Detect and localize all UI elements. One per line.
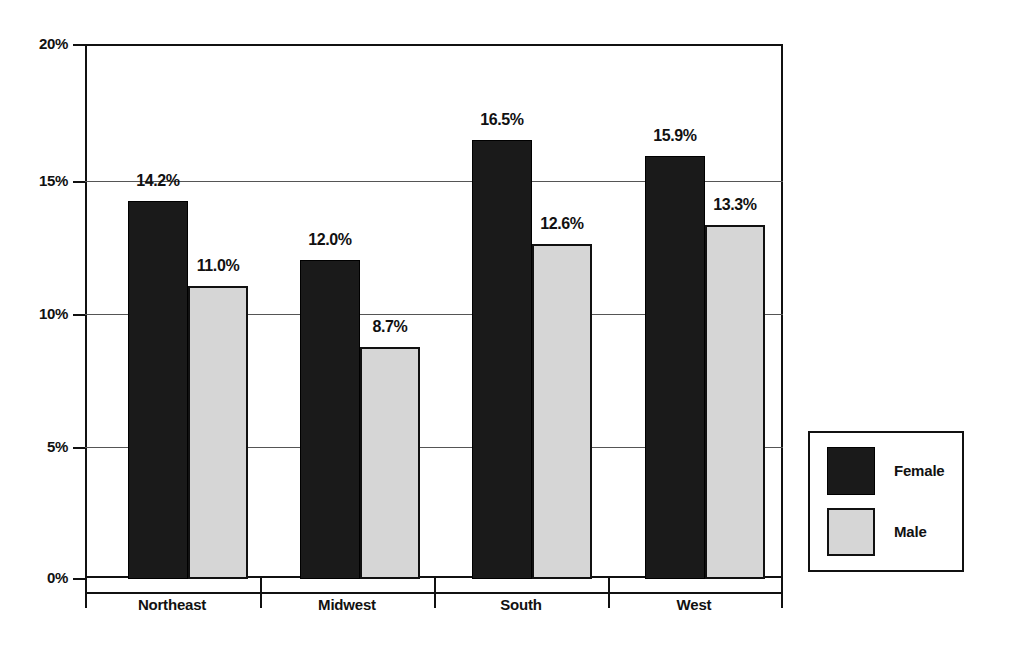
ytick-0: 0% — [0, 569, 68, 587]
bar-west-male[interactable] — [705, 225, 765, 579]
ytick-mark-15 — [73, 181, 85, 183]
legend-entry-male[interactable]: Male — [810, 508, 962, 564]
ytick-label-0: 0% — [0, 569, 68, 586]
bar-chart: 20% 15% 10% 5% 0% 14.2% 11.0% 12.0% 8.7%… — [0, 0, 1014, 655]
legend-label-male: Male — [894, 523, 927, 540]
ytick-15: 15% — [0, 172, 68, 190]
bar-south-female[interactable] — [472, 140, 532, 579]
ytick-mark-20 — [73, 44, 85, 46]
bar-label-midwest-male: 8.7% — [330, 318, 450, 336]
xtick-right-edge — [781, 578, 783, 608]
ytick-label-5: 5% — [0, 438, 68, 455]
ytick-mark-0 — [73, 578, 85, 580]
ytick-mark-5 — [73, 447, 85, 449]
bar-west-female[interactable] — [645, 156, 705, 579]
bar-label-south-male: 12.6% — [502, 215, 622, 233]
xtick-south-west — [608, 578, 610, 608]
xcat-label-west: West — [634, 596, 754, 613]
ytick-mark-10 — [73, 314, 85, 316]
legend-swatch-male-icon — [827, 508, 875, 556]
ytick-label-20: 20% — [0, 35, 68, 52]
ytick-10: 10% — [0, 305, 68, 323]
ytick-label-10: 10% — [0, 305, 68, 322]
xcat-label-south: South — [461, 596, 581, 613]
bar-label-west-male: 13.3% — [675, 196, 795, 214]
ytick-20: 20% — [0, 35, 68, 53]
bar-label-northeast-male: 11.0% — [158, 257, 278, 275]
xcat-label-midwest: Midwest — [287, 596, 407, 613]
bar-midwest-female[interactable] — [300, 260, 360, 579]
bar-label-west-female: 15.9% — [615, 127, 735, 145]
bar-label-midwest-female: 12.0% — [270, 231, 390, 249]
bar-label-northeast-female: 14.2% — [98, 172, 218, 190]
legend-label-female: Female — [894, 462, 945, 479]
xcat-label-northeast: Northeast — [112, 596, 232, 613]
bar-northeast-male[interactable] — [188, 286, 248, 579]
legend: Female Male — [808, 431, 964, 572]
bar-south-male[interactable] — [532, 244, 592, 579]
xtick-northeast-midwest — [260, 578, 262, 608]
legend-entry-female[interactable]: Female — [810, 447, 962, 503]
bar-label-south-female: 16.5% — [442, 111, 562, 129]
legend-swatch-female-icon — [827, 447, 875, 495]
ytick-5: 5% — [0, 438, 68, 456]
xtick-midwest-south — [434, 578, 436, 608]
ytick-label-15: 15% — [0, 172, 68, 189]
xtick-left-edge — [85, 578, 87, 608]
bar-midwest-male[interactable] — [360, 347, 420, 579]
